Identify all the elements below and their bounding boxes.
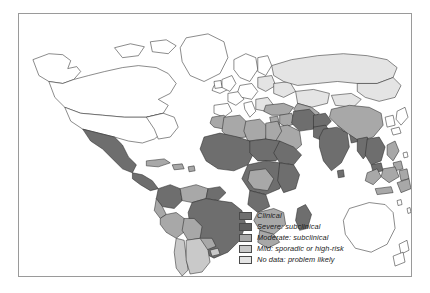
legend-item-no-data-problem-likely: No data: problem likely [239, 254, 367, 265]
region-pacific-island-2 [397, 200, 402, 206]
region-guyanas [206, 187, 226, 201]
legend-item-moderate-subclinical: Moderate: subclinical [239, 232, 367, 243]
region-papua-new-guinea [397, 179, 411, 193]
region-thailand-indochina [365, 137, 385, 165]
region-java [375, 187, 393, 195]
legend-swatch-severe-subclinical [239, 223, 252, 231]
region-peru [160, 212, 186, 238]
region-korea [385, 115, 395, 127]
region-canada-arctic-isles-2 [150, 40, 176, 54]
region-scandinavia [234, 54, 258, 82]
region-alaska [33, 54, 81, 84]
legend-item-severe-subclinical: Severe: subclinical [239, 221, 367, 232]
world-map-figure: Clinical Severe: subclinical Moderate: s… [18, 13, 412, 277]
region-mongolia [331, 93, 361, 107]
legend-label-moderate-subclinical: Moderate: subclinical [257, 233, 329, 242]
region-sulawesi [399, 169, 409, 181]
region-poland-baltics [258, 76, 276, 92]
legend-swatch-clinical [239, 212, 252, 220]
legend-swatch-mild-sporadic-high-risk [239, 245, 252, 253]
legend-swatch-moderate-subclinical [239, 234, 252, 242]
legend-label-no-data-problem-likely: No data: problem likely [257, 255, 334, 264]
region-greenland [180, 34, 228, 82]
map-legend: Clinical Severe: subclinical Moderate: s… [239, 210, 367, 265]
region-italy [244, 101, 256, 117]
region-japan [396, 107, 408, 125]
region-libya [244, 119, 268, 141]
region-sri-lanka [337, 170, 344, 178]
region-east-africa [278, 163, 300, 193]
region-pacific-island-1 [403, 152, 408, 158]
region-new-zealand-south [393, 252, 405, 266]
region-india [319, 127, 349, 171]
legend-swatch-no-data-problem-likely [239, 256, 252, 264]
region-caribbean-cuba [146, 159, 170, 167]
region-canada-arctic-isles [115, 44, 145, 58]
legend-label-clinical: Clinical [257, 211, 282, 220]
legend-label-severe-subclinical: Severe: subclinical [257, 222, 321, 231]
region-caribbean-hispaniola [172, 164, 184, 170]
legend-item-mild-sporadic-high-risk: Mild: sporadic or high-risk [239, 243, 367, 254]
region-caribbean-lesser-antilles [188, 166, 195, 172]
region-philippines [387, 141, 399, 161]
region-new-zealand [399, 240, 409, 254]
legend-item-clinical: Clinical [239, 210, 367, 221]
region-west-africa [200, 133, 254, 171]
region-russia [272, 54, 397, 86]
region-central-america [132, 173, 158, 191]
region-japan-south [391, 127, 401, 135]
region-finland [258, 56, 272, 76]
region-ireland [214, 80, 222, 88]
region-pacific-island-3 [407, 208, 411, 214]
legend-label-mild-sporadic-high-risk: Mild: sporadic or high-risk [257, 244, 344, 253]
